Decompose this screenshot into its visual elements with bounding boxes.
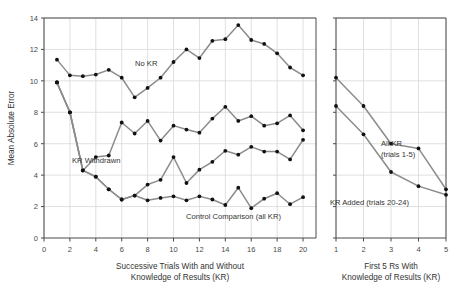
data-point <box>198 131 202 135</box>
data-point <box>275 121 279 125</box>
x-axis-title-line1: Successive Trials With and Without <box>116 262 245 271</box>
y-tick-label: 14 <box>30 14 38 23</box>
chart-figure: 0246810121402468101214161820Mean Absolut… <box>0 0 456 286</box>
y-tick-label: 10 <box>30 77 38 86</box>
x-axis-title-line1: First 5 Rs With <box>364 262 418 271</box>
x-tick-label: 18 <box>273 245 281 254</box>
x-tick-label: 4 <box>94 245 98 254</box>
data-point <box>81 74 85 78</box>
data-point <box>146 183 150 187</box>
x-tick-label: 0 <box>42 245 46 254</box>
data-point <box>133 132 137 136</box>
data-point <box>444 193 448 197</box>
data-point <box>262 124 266 128</box>
series-annotation: No KR <box>135 59 158 68</box>
x-tick-label: 14 <box>221 245 229 254</box>
x-tick-label: 12 <box>195 245 203 254</box>
data-point <box>249 38 253 42</box>
y-tick-label: 2 <box>34 202 38 211</box>
series-annotation-line2: (trials 1-5) <box>381 150 416 159</box>
y-tick-label: 6 <box>34 140 38 149</box>
data-point <box>107 68 111 72</box>
x-tick-label: 3 <box>389 245 393 254</box>
data-point <box>94 175 98 179</box>
data-point <box>68 73 72 77</box>
data-point <box>55 81 59 85</box>
data-point <box>159 178 163 182</box>
data-point <box>223 37 227 41</box>
data-point <box>172 124 176 128</box>
data-point <box>417 147 421 151</box>
x-tick-label: 16 <box>247 245 255 254</box>
data-point <box>301 128 305 132</box>
data-point <box>223 203 227 207</box>
data-point <box>120 198 124 202</box>
data-point <box>301 195 305 199</box>
data-point <box>185 198 189 202</box>
data-point <box>288 158 292 162</box>
x-axis-title-line2: Knowledge of Results (KR) <box>131 273 230 282</box>
data-point <box>120 76 124 80</box>
data-point <box>107 187 111 191</box>
y-tick-label: 12 <box>30 45 38 54</box>
data-point <box>275 51 279 55</box>
data-point <box>236 23 240 27</box>
y-tick-label: 4 <box>34 171 38 180</box>
y-axis-title: Mean Absolute Error <box>7 90 16 165</box>
data-point <box>275 191 279 195</box>
data-point <box>159 76 163 80</box>
data-point <box>236 153 240 157</box>
data-point <box>444 187 448 191</box>
data-point <box>301 138 305 142</box>
y-tick-label: 8 <box>34 108 38 117</box>
data-point <box>301 73 305 77</box>
x-tick-label: 10 <box>169 245 177 254</box>
x-tick-label: 2 <box>361 245 365 254</box>
data-point <box>389 170 393 174</box>
data-point <box>120 121 124 125</box>
data-point <box>81 169 85 173</box>
data-point <box>146 86 150 90</box>
left-panel: 0246810121402468101214161820Mean Absolut… <box>7 14 316 282</box>
data-point <box>55 58 59 62</box>
data-point <box>236 119 240 123</box>
data-point <box>198 168 202 172</box>
series-line <box>57 25 303 97</box>
data-point <box>417 184 421 188</box>
data-point <box>133 194 137 198</box>
x-tick-label: 1 <box>334 245 338 254</box>
data-point <box>146 198 150 202</box>
data-point <box>198 194 202 198</box>
y-tick-label: 0 <box>34 234 38 243</box>
data-point <box>362 104 366 108</box>
x-tick-label: 8 <box>146 245 150 254</box>
x-axis-title-line2: Knowledge of Results (KR) <box>342 273 441 282</box>
data-point <box>185 128 189 132</box>
data-point <box>159 196 163 200</box>
data-point <box>159 139 163 143</box>
x-tick-label: 20 <box>299 245 307 254</box>
data-point <box>172 60 176 64</box>
data-point <box>262 42 266 46</box>
chart-canvas: 0246810121402468101214161820Mean Absolut… <box>0 0 456 286</box>
data-point <box>334 104 338 108</box>
data-point <box>249 145 253 149</box>
data-point <box>94 73 98 77</box>
x-tick-label: 5 <box>444 245 448 254</box>
data-point <box>198 56 202 60</box>
series-line <box>57 82 303 199</box>
data-point <box>288 202 292 206</box>
data-point <box>172 155 176 159</box>
x-tick-label: 4 <box>416 245 420 254</box>
data-point <box>262 197 266 201</box>
data-point <box>288 66 292 70</box>
data-point <box>288 114 292 118</box>
data-point <box>210 160 214 164</box>
data-point <box>68 110 72 114</box>
data-point <box>223 149 227 153</box>
data-point <box>185 181 189 185</box>
data-point <box>262 150 266 154</box>
data-point <box>236 186 240 190</box>
series-annotation: All KR <box>381 139 403 148</box>
data-point <box>362 132 366 136</box>
